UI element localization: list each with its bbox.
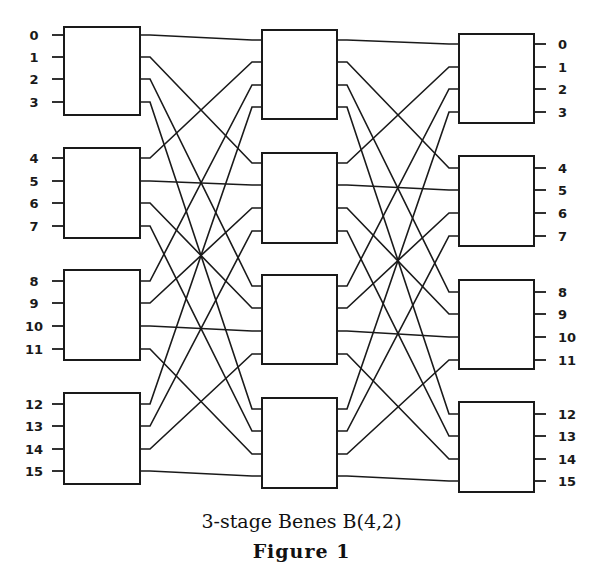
input-label: 0 — [29, 28, 38, 43]
switch-stage1-3 — [64, 393, 140, 484]
output-label: 0 — [558, 37, 567, 52]
input-label: 5 — [29, 174, 38, 189]
output-label: 1 — [558, 60, 567, 75]
input-label: 4 — [29, 151, 38, 166]
link — [337, 236, 459, 431]
output-label: 11 — [558, 353, 576, 368]
link — [140, 231, 262, 426]
benes-network-diagram: 0123456789101112131415012345678910111213… — [0, 0, 603, 505]
input-label: 13 — [25, 419, 43, 434]
link — [140, 354, 262, 449]
link — [337, 89, 459, 286]
switch-stage1-0 — [64, 27, 140, 115]
input-label: 14 — [25, 442, 43, 457]
link — [140, 35, 262, 40]
input-label: 6 — [29, 196, 38, 211]
output-label: 4 — [558, 161, 567, 176]
output-label: 8 — [558, 285, 567, 300]
input-label: 3 — [29, 95, 38, 110]
output-label: 5 — [558, 183, 567, 198]
switch-stage2-3 — [262, 398, 337, 488]
link — [140, 62, 262, 158]
input-label: 1 — [29, 50, 38, 65]
input-label: 10 — [25, 319, 43, 334]
output-label: 2 — [558, 82, 567, 97]
switch-stage2-0 — [262, 30, 337, 119]
input-label: 8 — [29, 274, 38, 289]
switch-boxes — [64, 27, 534, 492]
switch-stage2-1 — [262, 153, 337, 243]
switch-stage1-2 — [64, 270, 140, 360]
link — [337, 360, 459, 454]
input-label: 12 — [25, 397, 43, 412]
link — [140, 85, 262, 281]
switch-stage3-0 — [459, 34, 534, 123]
switch-stage1-1 — [64, 148, 140, 238]
link — [337, 40, 459, 44]
output-label: 12 — [558, 407, 576, 422]
output-label: 6 — [558, 206, 567, 221]
output-label: 7 — [558, 229, 567, 244]
output-label: 3 — [558, 105, 567, 120]
output-label: 10 — [558, 330, 576, 345]
diagram-caption: 3-stage Benes B(4,2) — [0, 510, 603, 532]
link — [337, 476, 459, 481]
output-label: 13 — [558, 429, 576, 444]
input-label: 7 — [29, 219, 38, 234]
link — [337, 67, 459, 163]
switch-stage3-3 — [459, 402, 534, 492]
input-label: 2 — [29, 72, 38, 87]
input-label: 11 — [25, 342, 43, 357]
output-label: 9 — [558, 307, 567, 322]
link — [337, 112, 459, 409]
input-label: 9 — [29, 296, 38, 311]
switch-stage3-1 — [459, 156, 534, 246]
input-label: 15 — [25, 464, 43, 479]
link — [140, 471, 262, 476]
figure-label: Figure 1 — [0, 540, 603, 562]
output-label: 14 — [558, 452, 576, 467]
switch-stage3-2 — [459, 280, 534, 369]
output-label: 15 — [558, 474, 576, 489]
link — [140, 107, 262, 404]
switch-stage2-2 — [262, 275, 337, 364]
